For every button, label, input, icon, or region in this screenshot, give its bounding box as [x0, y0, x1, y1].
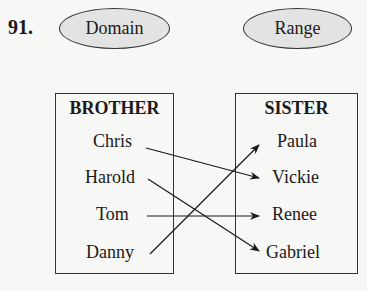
arrow-harold-to-gabriel — [148, 179, 259, 251]
arrow-chris-to-vickie — [146, 148, 259, 178]
mapping-arrows — [0, 0, 367, 291]
arrow-danny-to-paula — [150, 145, 259, 254]
